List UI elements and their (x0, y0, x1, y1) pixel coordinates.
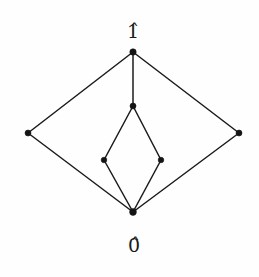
lattice-edge-outer-left-to-bottom (28, 133, 133, 212)
lattice-node-outer-right (236, 130, 242, 136)
lattice-edge-inner-right-to-bottom (133, 160, 161, 212)
lattice-node-inner-right (158, 157, 164, 163)
lattice-node-inner-upper (130, 103, 136, 109)
lattice-edge-top-to-outer-right (133, 52, 239, 133)
lattice-edge-outer-right-to-bottom (133, 133, 239, 212)
lattice-node-bottom (130, 209, 137, 216)
lattice-edge-inner-upper-to-inner-left (104, 106, 133, 160)
lattice-edge-top-to-outer-left (28, 52, 133, 133)
hasse-diagram-figure: 1̂0̂ (0, 0, 259, 277)
lattice-edge-inner-upper-to-inner-right (133, 106, 161, 160)
edge-layer (28, 52, 239, 212)
lattice-node-top (130, 49, 136, 55)
lattice-edge-inner-left-to-bottom (104, 160, 133, 212)
node-label-top: 1̂ (127, 22, 139, 41)
lattice-node-outer-left (25, 130, 31, 136)
lattice-node-inner-left (101, 157, 107, 163)
node-label-bottom: 0̂ (128, 236, 140, 255)
